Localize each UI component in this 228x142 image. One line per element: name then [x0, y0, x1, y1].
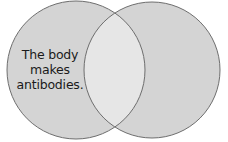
left-label-line-1: The body — [14, 47, 86, 62]
left-label-line-3: antibodies. — [14, 77, 86, 92]
left-circle-label: The body makes antibodies. — [14, 47, 86, 92]
venn-diagram: The body makes antibodies. — [0, 0, 228, 142]
left-label-line-2: makes — [14, 62, 86, 77]
